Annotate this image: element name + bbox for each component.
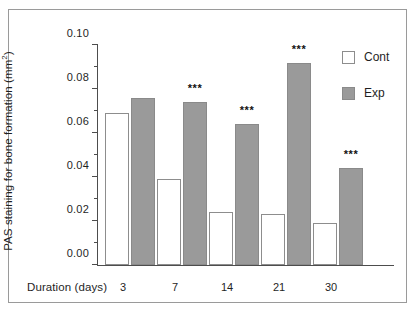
bar-exp bbox=[339, 168, 363, 265]
legend-item-exp: Exp bbox=[342, 86, 389, 100]
significance-marker: *** bbox=[235, 105, 259, 116]
bar-exp bbox=[183, 102, 207, 265]
bar-group: *** bbox=[261, 45, 313, 265]
x-axis-tick-label: 3 bbox=[97, 281, 149, 293]
y-axis-minor-tick bbox=[94, 242, 97, 243]
bar-cont bbox=[209, 212, 233, 265]
y-axis-tick-label: 0.08 bbox=[49, 71, 89, 83]
y-axis-tick-label: 0.02 bbox=[49, 203, 89, 215]
bar-exp bbox=[131, 98, 155, 265]
x-axis-tick-label: 7 bbox=[149, 281, 201, 293]
y-axis-tick bbox=[92, 132, 97, 133]
y-axis-minor-tick bbox=[94, 66, 97, 67]
x-axis-line bbox=[97, 265, 394, 266]
legend-item-cont: Cont bbox=[342, 50, 389, 64]
y-axis-title-exponent: 2 bbox=[0, 55, 9, 60]
y-axis-tick-label: 0.10 bbox=[49, 27, 89, 39]
y-axis-tick-label: 0.04 bbox=[49, 159, 89, 171]
legend-label: Exp bbox=[364, 86, 385, 100]
y-axis-title: PAS staining for bone formation (mm2) bbox=[0, 41, 14, 261]
bar-cont bbox=[261, 214, 285, 265]
y-axis-tick-label: 0.00 bbox=[49, 247, 89, 259]
bar-exp bbox=[287, 63, 311, 265]
bar-cont bbox=[157, 179, 181, 265]
bar-exp bbox=[235, 124, 259, 265]
legend-swatch-exp bbox=[342, 87, 355, 100]
y-axis-tick bbox=[92, 220, 97, 221]
legend-label: Cont bbox=[364, 50, 389, 64]
y-axis-title-tail: ) bbox=[2, 51, 14, 55]
significance-marker: *** bbox=[183, 83, 207, 94]
bar-group: *** bbox=[157, 45, 209, 265]
y-axis-minor-tick bbox=[94, 198, 97, 199]
chart-screenshot: PAS staining for bone formation (mm2) 0.… bbox=[0, 0, 416, 312]
y-axis-tick bbox=[92, 88, 97, 89]
y-axis-tick-label: 0.06 bbox=[49, 115, 89, 127]
significance-marker: *** bbox=[287, 44, 311, 55]
bar-group bbox=[105, 45, 157, 265]
legend: ContExp bbox=[342, 50, 389, 122]
y-axis-tick bbox=[92, 176, 97, 177]
figure-frame: PAS staining for bone formation (mm2) 0.… bbox=[8, 9, 407, 303]
x-axis-tick-label: 21 bbox=[253, 281, 305, 293]
y-axis-tick bbox=[92, 44, 97, 45]
y-axis-tick bbox=[92, 264, 97, 265]
bar-cont bbox=[105, 113, 129, 265]
y-axis-title-main: PAS staining for bone formation (mm bbox=[2, 60, 14, 251]
x-axis-tick-label: 14 bbox=[201, 281, 253, 293]
y-axis-minor-tick bbox=[94, 110, 97, 111]
bar-cont bbox=[313, 223, 337, 265]
significance-marker: *** bbox=[339, 149, 363, 160]
x-axis-tick-label: 30 bbox=[305, 281, 357, 293]
x-axis-title: Duration (days) bbox=[27, 281, 107, 293]
y-axis-minor-tick bbox=[94, 154, 97, 155]
bar-group: *** bbox=[209, 45, 261, 265]
legend-swatch-cont bbox=[342, 51, 355, 64]
